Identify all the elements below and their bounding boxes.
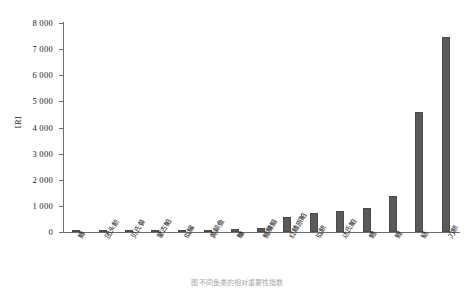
chart-screenshot: IRI 8 0007 0006 0005 0004 0003 0002 0001… bbox=[0, 0, 474, 291]
y-axis-title: IRI bbox=[13, 116, 23, 129]
y-axis-tick-label: 1 000 bbox=[32, 201, 53, 211]
y-axis-tick: 3 000 bbox=[59, 154, 64, 155]
bar bbox=[389, 196, 397, 232]
y-axis-tick-label: 4 000 bbox=[32, 123, 53, 133]
y-axis-tick: 4 000 bbox=[59, 128, 64, 129]
y-axis-tick: 2 000 bbox=[59, 180, 64, 181]
y-axis-tick-label: 6 000 bbox=[32, 70, 53, 80]
y-axis-tick-label: 5 000 bbox=[32, 96, 53, 106]
y-axis-tick-label: 8 000 bbox=[32, 18, 53, 28]
y-axis-tick: 5 000 bbox=[59, 101, 64, 102]
y-axis-tick-label: 0 bbox=[48, 227, 53, 237]
bar bbox=[415, 112, 423, 232]
y-axis-tick: 1 000 bbox=[59, 206, 64, 207]
y-axis-tick-label: 3 000 bbox=[32, 149, 53, 159]
y-axis-tick-label: 7 000 bbox=[32, 44, 53, 54]
y-axis-tick: 7 000 bbox=[59, 49, 64, 50]
bar bbox=[442, 37, 450, 232]
y-axis-tick: 8 000 bbox=[59, 23, 64, 24]
y-axis-tick-label: 2 000 bbox=[32, 175, 53, 185]
y-axis-tick: 6 000 bbox=[59, 75, 64, 76]
figure-caption: 图 不同鱼类的相对重要性指数 bbox=[0, 277, 474, 287]
plot-area: 8 0007 0006 0005 0004 0003 0002 0001 000… bbox=[63, 23, 459, 232]
